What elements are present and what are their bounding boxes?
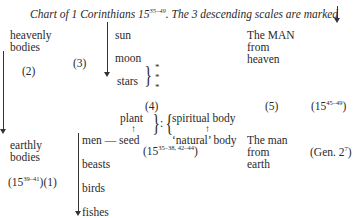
line-3: heaven: [247, 53, 295, 65]
earthly-bodies-label: earthly bodies: [10, 139, 42, 163]
title-book: 1 Corinthians 15: [72, 8, 150, 20]
line-2: from: [247, 41, 295, 53]
earthly-scale-arrow-line: [78, 133, 79, 213]
line-1: The MAN: [247, 29, 295, 41]
item-birds: birds: [82, 182, 105, 194]
earthly-ref: (1539–41)(1): [8, 176, 57, 188]
earthly-word: earthly: [10, 139, 42, 151]
genesis-ref: (Gen. 27): [310, 146, 352, 158]
left-brace: }: [152, 110, 159, 136]
ref-base: (15: [311, 100, 326, 112]
heavenly-scale-arrow-line: [107, 22, 108, 74]
gen-end: ): [348, 146, 352, 158]
chart-title: Chart of 1 Corinthians 1535–49. The 3 de…: [30, 8, 338, 20]
heavenly-word: heavenly: [10, 29, 52, 41]
bodies-word: bodies: [10, 41, 52, 53]
star-3: *: [155, 82, 160, 92]
item-sun: sun: [115, 29, 131, 41]
marker-5: (5): [265, 100, 278, 112]
item-stars: stars: [117, 75, 138, 87]
colon: :: [160, 117, 163, 129]
title-prefix: Chart of: [30, 8, 72, 20]
earthly-scale-arrow-head-icon: [75, 211, 81, 216]
left-scale-arrow-head-icon: [0, 129, 6, 134]
marker-1: (1): [43, 176, 56, 188]
line-3: earth: [247, 158, 288, 170]
left-scale-arrow-line: [3, 51, 4, 131]
item-fishes: fishes: [82, 206, 109, 218]
bodies-word-2: bodies: [10, 151, 42, 163]
title-suffix: . The 3 descending scales are marked: [166, 8, 338, 20]
ref-end: ): [343, 100, 347, 112]
marker-2: (2): [22, 65, 35, 77]
ref-sup: 45–49: [326, 99, 342, 106]
ref-sup: 39–41: [23, 175, 39, 182]
ref-base: (15: [8, 176, 23, 188]
ref-base: (15: [143, 145, 158, 157]
heavenly-bodies-label: heavenly bodies: [10, 29, 52, 53]
item-moon: moon: [115, 52, 141, 64]
spiritual-body-label: spiritual body: [172, 112, 236, 124]
heavenly-scale-arrow-head-icon: [104, 72, 110, 77]
title-arrow-head-icon: [334, 18, 340, 23]
man-from-earth-label: The man from earth: [247, 134, 288, 170]
gen-base: (Gen. 2: [310, 146, 345, 158]
item-men-seed: men — seed: [82, 134, 139, 146]
star-2: *: [155, 72, 160, 82]
ref-end: ): [194, 145, 198, 157]
item-beasts: beasts: [82, 158, 110, 170]
man-from-heaven-label: The MAN from heaven: [247, 29, 295, 65]
ref-sup: 35–38, 42–44: [158, 144, 194, 151]
line-2: from: [247, 146, 288, 158]
marker-3: (3): [73, 57, 86, 69]
right-ref: (1545–49): [311, 100, 346, 112]
line-1: The man: [247, 134, 288, 146]
title-verse-range: 35–49: [150, 7, 166, 14]
stars-brace: }: [144, 62, 151, 88]
stars-list: * * *: [155, 62, 160, 92]
analogy-ref: (1535–38, 42–44): [143, 145, 198, 157]
star-1: *: [155, 62, 160, 72]
